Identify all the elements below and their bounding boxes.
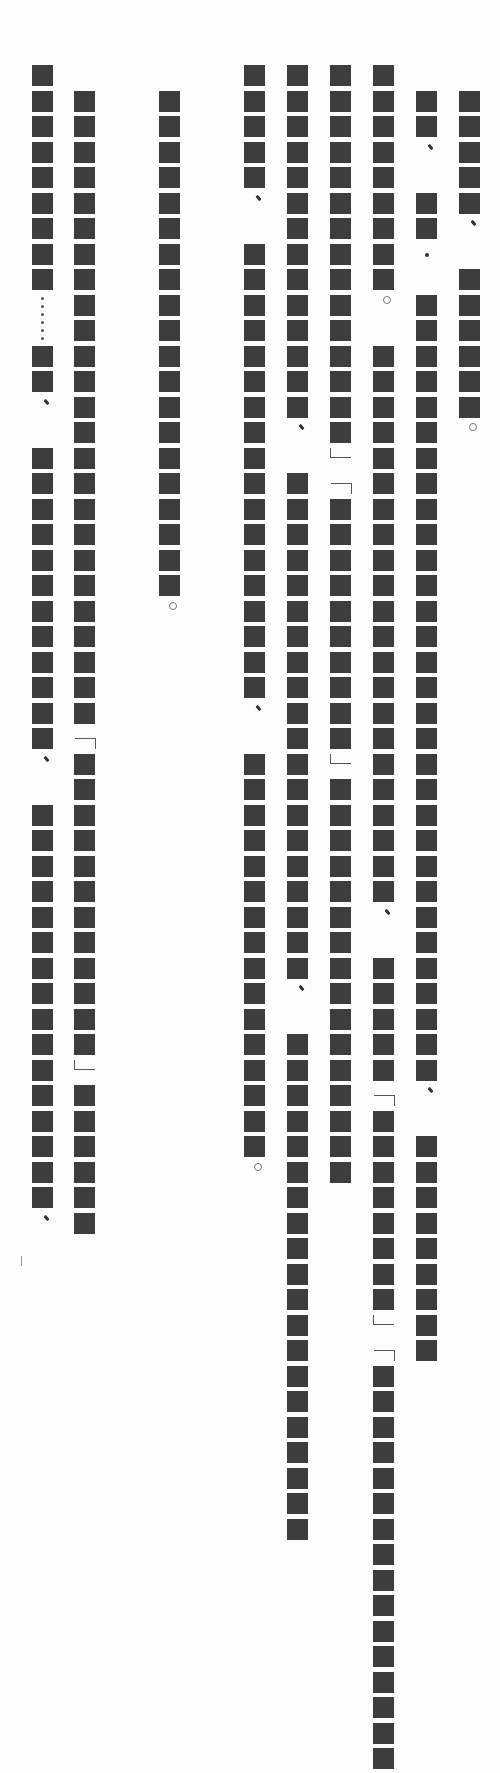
redacted-glyph [416,1289,438,1315]
redacted-glyph [330,218,352,244]
redacted-glyph [330,856,352,882]
redacted-glyph [32,116,54,142]
redacted-glyph [416,856,438,882]
redacted-glyph [373,754,395,780]
redacted-glyph [74,1162,96,1188]
redacted-glyph [287,626,309,652]
blank-cell [373,932,395,958]
redacted-glyph [74,167,96,193]
redacted-glyph [287,1111,309,1137]
redacted-glyph [287,397,309,423]
redacted-glyph [32,601,54,627]
redacted-glyph [287,371,309,397]
redacted-glyph [373,1697,395,1723]
redacted-glyph [244,779,266,805]
redacted-glyph [244,371,266,397]
redacted-glyph [416,677,438,703]
redacted-glyph [330,1162,352,1188]
redacted-glyph [373,142,395,168]
redacted-glyph [416,907,438,933]
close-bracket-mark [330,754,352,780]
redacted-glyph [373,1417,395,1443]
redacted-glyph [244,983,266,1009]
redacted-glyph [330,499,352,525]
redacted-glyph [244,601,266,627]
redacted-glyph [244,422,266,448]
redacted-glyph [330,371,352,397]
redacted-glyph [416,1009,438,1035]
redacted-glyph [287,958,309,984]
redacted-glyph [287,1085,309,1111]
redacted-glyph [330,295,352,321]
redacted-glyph [330,116,352,142]
comma-mark [416,142,438,168]
redacted-glyph [459,346,481,372]
redacted-glyph [159,524,181,550]
redacted-glyph [416,295,438,321]
redacted-glyph [159,91,181,117]
redacted-glyph [287,1468,309,1494]
redacted-glyph [287,295,309,321]
comma-mark [287,422,309,448]
redacted-glyph [373,1162,395,1188]
redacted-glyph [159,499,181,525]
redacted-glyph [287,1060,309,1086]
redacted-glyph [244,269,266,295]
redacted-glyph [416,397,438,423]
blank-cell [32,779,54,805]
redacted-glyph [330,244,352,270]
redacted-glyph [74,983,96,1009]
redacted-glyph [32,805,54,831]
redacted-glyph [373,91,395,117]
redacted-glyph [287,244,309,270]
redacted-glyph [373,1544,395,1570]
redacted-glyph [74,346,96,372]
redacted-glyph [32,346,54,372]
redacted-glyph [373,499,395,525]
redacted-glyph [373,422,395,448]
blank-cell [373,320,395,346]
redacted-glyph [287,550,309,576]
redacted-glyph [416,1315,438,1341]
redacted-glyph [373,193,395,219]
redacted-glyph [32,958,54,984]
redacted-glyph [74,295,96,321]
period-mark [244,1162,266,1188]
close-bracket-mark [74,1060,96,1086]
redacted-glyph [159,371,181,397]
redacted-glyph [159,550,181,576]
redacted-glyph [244,881,266,907]
redacted-glyph [330,932,352,958]
comma-mark [32,1213,54,1239]
redacted-glyph [330,601,352,627]
redacted-glyph [287,1289,309,1315]
redacted-glyph [287,167,309,193]
redacted-glyph [74,422,96,448]
redacted-glyph [373,346,395,372]
redacted-glyph [74,856,96,882]
redacted-glyph [373,1748,395,1773]
redacted-glyph [159,448,181,474]
redacted-glyph [32,728,54,754]
redacted-glyph [416,1340,438,1366]
redacted-glyph [373,1289,395,1315]
redacted-glyph [32,218,54,244]
redacted-glyph [287,116,309,142]
open-bracket-mark [373,1085,395,1111]
redacted-glyph [330,269,352,295]
redacted-glyph [330,65,352,91]
redacted-glyph [416,881,438,907]
comma-mark [416,1085,438,1111]
redacted-glyph [74,1136,96,1162]
redacted-glyph [32,703,54,729]
redacted-glyph [244,1009,266,1035]
redacted-glyph [459,269,481,295]
redacted-glyph [416,958,438,984]
redacted-glyph [74,524,96,550]
redacted-glyph [287,1391,309,1417]
redacted-glyph [330,907,352,933]
redacted-glyph [74,1213,96,1239]
blank-cell [416,269,438,295]
redacted-glyph [459,320,481,346]
page-edge-mark [21,1256,22,1266]
